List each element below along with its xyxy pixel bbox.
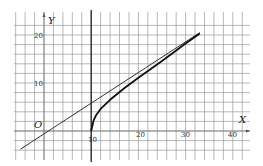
x-tick-30: 30 — [181, 131, 190, 139]
grid — [14, 12, 250, 160]
plot-area: Y X O 10 20 30 40 20 10 — [0, 0, 263, 166]
curve-series — [91, 34, 200, 131]
y-tick-10: 10 — [34, 80, 43, 88]
x-axis-label: X — [238, 114, 247, 125]
x-tick-40: 40 — [228, 131, 237, 139]
y-axis-arrow-icon — [43, 13, 46, 17]
labels: Y X O 10 20 30 40 20 10 — [34, 15, 247, 144]
x-tick-10: 10 — [88, 136, 97, 144]
y-tick-20: 20 — [34, 32, 43, 40]
x-axis-arrow-icon — [246, 130, 250, 133]
axes — [14, 10, 250, 162]
origin-label: O — [34, 119, 42, 130]
y-axis-label: Y — [48, 15, 56, 26]
chart: Y X O 10 20 30 40 20 10 — [0, 0, 263, 166]
x-tick-20: 20 — [136, 131, 145, 139]
